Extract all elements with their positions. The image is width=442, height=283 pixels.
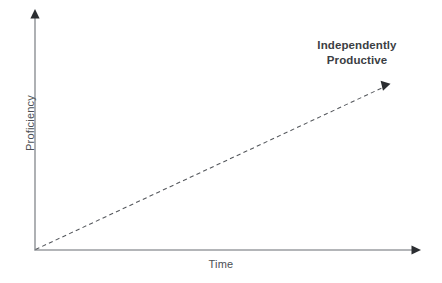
series-annotation-line-2: Productive — [277, 53, 437, 68]
chart-canvas: Proficiency Time Independently Productiv… — [0, 0, 442, 283]
trend-line-arrowhead — [381, 81, 391, 91]
series-annotation-line-1: Independently — [317, 39, 396, 51]
x-axis-title: Time — [0, 258, 442, 270]
y-axis-title: Proficiency — [24, 95, 36, 155]
trend-line-dashed — [36, 87, 385, 250]
y-axis-title-wrapper: Proficiency — [0, 0, 36, 250]
x-axis-arrowhead — [412, 245, 422, 254]
series-annotation-label: Independently Productive — [277, 38, 437, 68]
